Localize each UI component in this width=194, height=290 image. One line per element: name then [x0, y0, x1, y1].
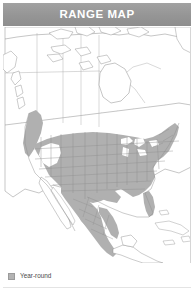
- page-title: RANGE MAP: [59, 9, 134, 21]
- map-legend: Year-round: [3, 266, 191, 286]
- caribbean-islands: [155, 210, 191, 245]
- legend-item-year-round: Year-round: [3, 273, 51, 280]
- footer-divider: [3, 287, 191, 288]
- range-map-header: RANGE MAP: [3, 3, 191, 26]
- legend-item-label: Year-round: [20, 273, 51, 279]
- central-america: [113, 235, 163, 263]
- north-america-map-svg: [3, 27, 191, 263]
- square-swatch-icon: [8, 273, 15, 280]
- range-map-panel: RANGE MAP: [0, 0, 194, 290]
- map-canvas: [3, 27, 191, 263]
